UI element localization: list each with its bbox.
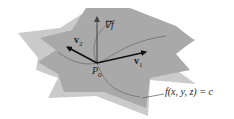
gradient-label: ∇f [104, 20, 114, 30]
v2-label: v2 [74, 35, 83, 48]
v1-label: v1 [134, 56, 143, 69]
point-label: P0 [92, 66, 102, 79]
v2-subscript: 2 [79, 40, 83, 48]
diagram-graphic [0, 0, 234, 119]
gradient-label-text: ∇f [104, 19, 114, 30]
surface-equation-label: f(x, y, z) = c [165, 87, 213, 97]
v1-subscript: 1 [139, 61, 143, 69]
tangent-plane-diagram: ∇f v2 v1 P0 f(x, y, z) = c [0, 0, 234, 119]
point-subscript: 0 [98, 71, 102, 79]
